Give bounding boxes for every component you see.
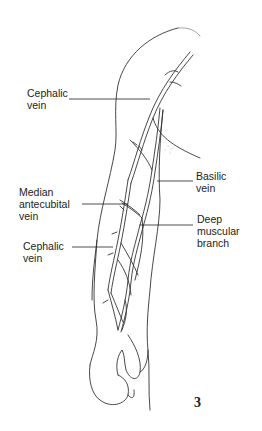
label-basilic-vein: Basilic vein xyxy=(196,170,226,194)
label-cephalic-vein-lower: Cephalic vein xyxy=(23,240,64,264)
label-median-antecubital-vein: Median antecubital vein xyxy=(19,186,70,222)
label-deep-muscular-branch: Deep muscular branch xyxy=(197,213,240,249)
label-cephalic-vein-upper: Cephalic vein xyxy=(27,87,68,111)
arm-vein-diagram: Cephalic vein Basilic vein Median antecu… xyxy=(0,0,262,431)
figure-number: 3 xyxy=(194,395,201,411)
